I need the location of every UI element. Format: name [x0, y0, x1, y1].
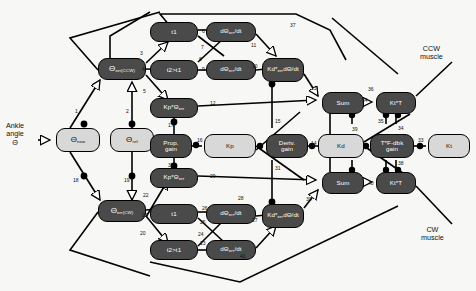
edge-number: 8: [199, 56, 202, 62]
node-t2-gt-t1-bottom-label: t2>t1: [167, 247, 181, 253]
edge-number: 20: [140, 230, 146, 236]
node-prop-gain-label: Prop.gain: [163, 140, 178, 153]
edge-number: 3: [140, 50, 143, 56]
node-kp-theta-err-bottom[interactable]: Kp*Θerr: [150, 168, 198, 188]
node-sum-bottom-label: Sum: [336, 180, 349, 186]
node-t-f-dbk-gain-label: T*F-dbkgain: [381, 140, 404, 153]
diagram-canvas: ΘnowΘrefΘerr(CCW)Θerr(CW)t1t2>t1dΘerr/dt…: [0, 0, 476, 291]
edge-number: 4: [142, 66, 145, 72]
node-kd-dtheta-err-dt-top[interactable]: Kd*errdΘ/dt: [262, 58, 304, 82]
node-theta-err-cw[interactable]: Θerr(CW): [98, 200, 146, 222]
edge-number: 37: [290, 22, 296, 28]
edge-number: 18: [73, 177, 79, 183]
edge-number: 11: [251, 42, 256, 48]
node-prop-gain[interactable]: Prop.gain: [150, 134, 192, 158]
edge-number: 15: [275, 118, 281, 124]
node-t2-gt-t1-top-label: t2>t1: [167, 67, 181, 73]
node-kt-t-bottom-label: Kt*T: [390, 180, 402, 186]
node-t1-bottom-label: t1: [171, 211, 176, 217]
node-kd-dtheta-err-dt-top-label: Kd*errdΘ/dt: [267, 66, 299, 73]
edge-number: 6: [202, 28, 205, 34]
edge-number: 7: [201, 44, 204, 50]
edge-number: 36: [368, 86, 374, 92]
edge-number: 19: [124, 177, 130, 183]
ankle-angle-label: AnkleangleΘ: [6, 122, 24, 147]
edge-number: 24: [198, 231, 204, 237]
node-sum-top-label: Sum: [336, 100, 349, 106]
edge-number: 30: [306, 196, 312, 202]
node-dtheta-err-dt-bottom-2-label: dΘerr/dt: [220, 246, 241, 253]
edge-number: 29: [210, 173, 216, 179]
node-kt-label: Kt: [446, 143, 452, 149]
edge-number: 34: [362, 97, 368, 103]
node-dtheta-err-dt-bottom-1[interactable]: dΘerr/dt: [206, 204, 256, 224]
edge-number: 34: [398, 125, 404, 131]
node-deriv-gain[interactable]: Deriv.gain: [266, 134, 308, 158]
node-t-f-dbk-gain[interactable]: T*F-dbkgain: [370, 134, 414, 158]
edge-number: 32: [168, 162, 174, 168]
node-t2-gt-t1-top[interactable]: t2>t1: [150, 60, 198, 80]
node-kd-dtheta-err-dt-bottom-label: Kd*errdΘ/dt: [267, 212, 299, 219]
edge-number: 13: [311, 85, 317, 91]
edge-number: 1: [75, 108, 78, 114]
node-t1-bottom[interactable]: t1: [150, 204, 198, 224]
node-kp-theta-err-top-label: Kp*Θerr: [164, 104, 185, 111]
edge-number: 39: [352, 126, 358, 132]
node-kp-theta-err-top[interactable]: Kp*Θerr: [150, 98, 198, 118]
node-kp-theta-err-bottom-label: Kp*Θerr: [164, 174, 185, 181]
node-theta-now-label: Θnow: [71, 136, 86, 144]
node-kt-t-top-label: Kt*T: [390, 100, 402, 106]
node-dtheta-err-dt-bottom-2[interactable]: dΘerr/dt: [206, 240, 256, 260]
node-kd-label: Kd: [337, 143, 345, 149]
edge-number: 21: [142, 212, 148, 218]
edge-number: 31: [275, 165, 281, 171]
node-kd[interactable]: Kd: [318, 134, 364, 158]
node-t1-top[interactable]: t1: [150, 22, 198, 42]
node-kp[interactable]: Kp: [204, 134, 256, 158]
edge-number: 16: [197, 137, 203, 143]
node-dtheta-err-dt-top-1[interactable]: dΘerr/dt: [206, 22, 256, 42]
edge-number: 12: [210, 100, 216, 106]
edge-number: 28: [238, 195, 244, 201]
edge-number: 5: [143, 88, 146, 94]
cw-muscle-label: CWmuscle: [421, 226, 444, 243]
node-dtheta-err-dt-top-2[interactable]: dΘerr/dt: [206, 60, 256, 80]
node-theta-now[interactable]: Θnow: [56, 128, 100, 152]
edge-number: 35: [378, 118, 384, 124]
edge-number: 10: [252, 63, 258, 69]
node-deriv-gain-label: Deriv.gain: [279, 140, 295, 153]
node-t1-top-label: t1: [171, 29, 176, 35]
edge-number: 22: [143, 192, 149, 198]
edge-number: 23: [200, 240, 206, 246]
node-t2-gt-t1-bottom[interactable]: t2>t1: [150, 240, 198, 260]
node-theta-err-ccw[interactable]: Θerr(CCW): [98, 58, 146, 80]
edge-number: 27: [252, 217, 258, 223]
node-kt[interactable]: Kt: [428, 134, 470, 158]
node-dtheta-err-dt-top-1-label: dΘerr/dt: [220, 28, 241, 35]
edge-number: 26: [202, 205, 208, 211]
edge-number: 17: [168, 122, 174, 128]
edge-number: 40: [368, 180, 374, 186]
node-dtheta-err-dt-bottom-1-label: dΘerr/dt: [220, 210, 241, 217]
edge-number: 14: [311, 140, 317, 146]
ccw-muscle-label: CCWmuscle: [420, 45, 443, 62]
node-theta-err-cw-label: Θerr(CW): [111, 207, 134, 215]
node-theta-err-ccw-label: Θerr(CCW): [109, 65, 135, 73]
edge-number: 38: [398, 160, 404, 166]
edge-number: 33: [418, 137, 424, 143]
node-sum-top[interactable]: Sum: [322, 92, 364, 114]
node-dtheta-err-dt-top-2-label: dΘerr/dt: [220, 66, 241, 73]
node-kd-dtheta-err-dt-bottom[interactable]: Kd*errdΘ/dt: [262, 204, 304, 228]
node-sum-bottom[interactable]: Sum: [322, 172, 364, 194]
node-kt-t-top[interactable]: Kt*T: [376, 92, 416, 114]
node-kp-label: Kp: [226, 143, 234, 149]
node-theta-ref-label: Θref: [126, 136, 138, 144]
edge-number: 41: [240, 253, 246, 259]
node-theta-ref[interactable]: Θref: [110, 128, 154, 152]
node-kt-t-bottom[interactable]: Kt*T: [376, 172, 416, 194]
edge-number: 2: [126, 108, 129, 114]
edge-number: 9: [202, 66, 205, 72]
edge-number: 25: [200, 219, 206, 225]
